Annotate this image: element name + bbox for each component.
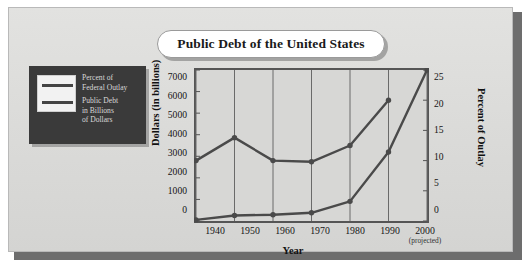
data-point-debt-1960 <box>270 212 275 217</box>
legend-item-public-debt: Public Debt in Billions of Dollars <box>82 96 142 125</box>
legend-item-percent-line2: Federal Outlay <box>82 83 142 93</box>
y-left-tick-1000: 1000 <box>151 185 187 196</box>
x-tick-1960: 1960 <box>265 225 305 236</box>
legend-swatch-line-percent <box>42 84 73 87</box>
y-axis-right-title: Percent of Outlay <box>476 88 487 167</box>
legend-labels: Percent of Federal Outlay Public Debt in… <box>82 73 142 129</box>
data-point-debt-1980 <box>347 199 352 204</box>
chart-panel: Public Debt of the United States Percent… <box>8 7 513 252</box>
legend-item-percent-line1: Percent of <box>82 73 142 83</box>
legend-item-debt-line3: of Dollars <box>82 115 142 125</box>
legend-item-debt-line2: in Billions <box>82 106 142 116</box>
chart-legend: Percent of Federal Outlay Public Debt in… <box>29 66 146 144</box>
x-axis-title: Year <box>9 245 528 256</box>
figure-root: Public Debt of the United States Percent… <box>0 0 528 268</box>
y-right-tick-5: 5 <box>434 177 460 188</box>
y-left-tick-7000: 7000 <box>151 71 187 82</box>
data-point-percent-1960 <box>270 158 275 163</box>
data-point-percent-1990 <box>386 98 391 103</box>
y-right-tick-25: 25 <box>434 71 460 82</box>
y-left-tick-5000: 5000 <box>151 109 187 120</box>
x-tick-1990: 1990 <box>370 225 410 236</box>
y-right-tick-15: 15 <box>434 124 460 135</box>
y-left-tick-0: 0 <box>151 204 187 215</box>
series-line-percent-of-federal-outlay <box>196 100 389 162</box>
x-tick-1970: 1970 <box>300 225 340 236</box>
x-tick-1950: 1950 <box>230 225 270 236</box>
plot-area <box>194 68 429 223</box>
x-tick-2000-note: (projected) <box>399 236 451 245</box>
y-right-tick-0: 0 <box>434 204 460 215</box>
y-right-tick-20: 20 <box>434 98 460 109</box>
y-right-tick-10: 10 <box>434 151 460 162</box>
data-point-debt-1940 <box>194 217 199 222</box>
legend-item-percent-of-federal-outlay: Percent of Federal Outlay <box>82 73 142 92</box>
legend-swatch-box <box>37 75 76 112</box>
page-title: Public Debt of the United States <box>177 36 364 52</box>
data-point-debt-1990 <box>386 149 391 154</box>
data-point-percent-1980 <box>347 143 352 148</box>
data-point-percent-1970 <box>309 159 314 164</box>
y-left-tick-2000: 2000 <box>151 166 187 177</box>
legend-item-debt-line1: Public Debt <box>82 96 142 106</box>
y-left-tick-3000: 3000 <box>151 147 187 158</box>
x-tick-1980: 1980 <box>335 225 375 236</box>
data-point-debt-1950 <box>232 213 237 218</box>
chart-title-pill: Public Debt of the United States <box>157 30 385 58</box>
x-tick-1940: 1940 <box>195 225 235 236</box>
data-point-debt-1970 <box>309 210 314 215</box>
legend-swatch-line-debt <box>42 101 73 104</box>
data-point-percent-1950 <box>232 135 237 140</box>
y-left-tick-6000: 6000 <box>151 90 187 101</box>
y-left-tick-4000: 4000 <box>151 128 187 139</box>
x-tick-2000: 2000 <box>405 225 445 236</box>
line-chart-svg <box>194 68 429 223</box>
